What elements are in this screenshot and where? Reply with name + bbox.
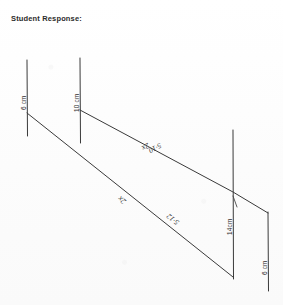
- lower-diagonal-line: [27, 113, 233, 277]
- vertical-segment-third-post: [233, 130, 234, 279]
- scanned-page: Student Response: 6 cm 10 cm 14cm 6 cm 2…: [0, 0, 283, 305]
- measure-label-left-post: 6 cm: [20, 95, 27, 110]
- upper-diagonal-line: [80, 110, 268, 213]
- measure-label-right-post: 6 cm: [261, 260, 268, 275]
- measure-label-second-post: 10 cm: [73, 94, 80, 112]
- vertical-segment-second-post: [80, 58, 81, 143]
- measure-label-third-post: 14cm: [226, 219, 233, 235]
- vertical-segment-right-post: [268, 212, 269, 291]
- vertical-segment-left-post: [27, 60, 28, 136]
- geometry-diagram: [0, 0, 283, 305]
